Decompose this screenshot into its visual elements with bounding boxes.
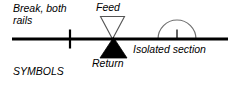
break-both-rails-label: Break, both rails [13, 2, 93, 26]
return-label: Return [92, 57, 124, 69]
symbols-legend-diagram: Break, both rails Feed Return Isolated s… [0, 0, 235, 86]
return-triangle-icon [100, 38, 127, 59]
feed-label: Feed [96, 1, 120, 13]
isolated-section-label: Isolated section [133, 43, 206, 55]
feed-triangle-icon [101, 17, 125, 40]
symbols-caption: SYMBOLS [13, 65, 64, 77]
